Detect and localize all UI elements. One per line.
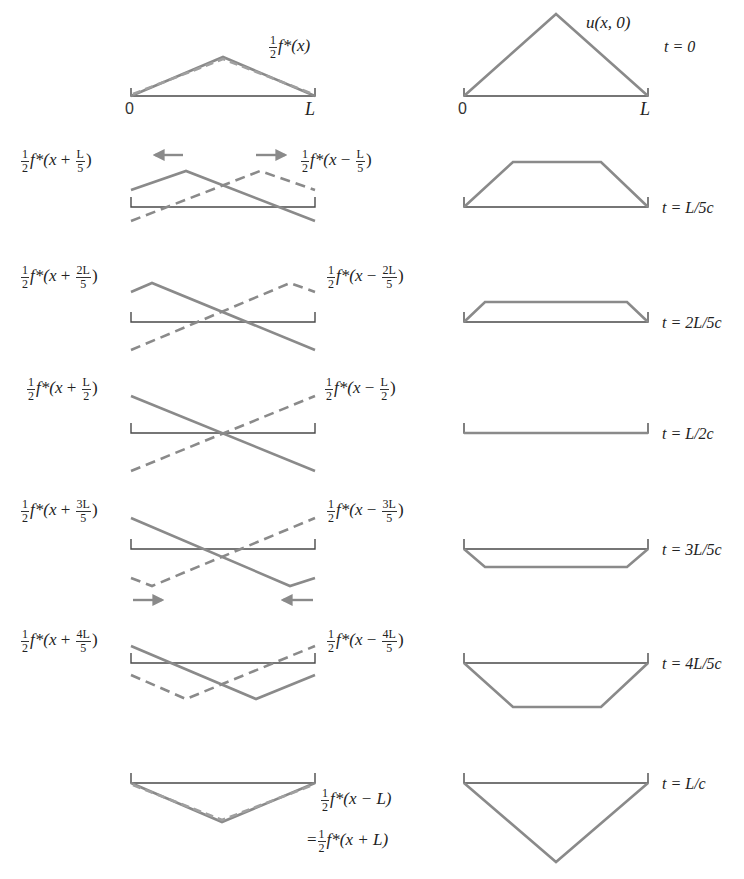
time-label-row3: t = L/2c [662,425,714,443]
wave-diagram [0,0,744,879]
axis-zero-left: 0 [125,100,134,118]
string-left-row4 [131,539,315,549]
string-left-row1 [131,197,315,207]
time-label-row4: t = 3L/5c [662,541,722,559]
u-row6 [464,783,648,862]
left-waves [131,57,315,822]
u-row5 [464,663,648,707]
wave-left-row5-solid [131,646,315,699]
wave-left-row6-dashed [133,785,313,820]
string-right-row5 [464,653,648,663]
label-final-line1: 12f*(x − L) [320,787,392,813]
label-half-fstar-x: 12f*(x) [268,34,310,60]
string-left-row0 [131,88,315,96]
right-waves [464,14,648,862]
time-label-row2: t = 2L/5c [662,314,722,332]
u-row2 [464,302,648,322]
label-u-x-0: u(x, 0) [586,14,630,31]
label-left-wave-row4: 12f*(x + 3L5) [20,498,98,524]
u-row4 [464,549,648,567]
wave-left-row1-dashed [131,171,315,221]
time-label-row6: t = L/c [662,775,706,793]
string-right-row0 [464,88,648,96]
wave-left-row6-solid [131,783,315,822]
label-final-line2: =12f*(x + L) [307,828,388,854]
label-right-wave-row4: 12f*(x − 3L5) [326,498,404,524]
string-right-row2 [464,312,648,322]
label-left-wave-row5: 12f*(x + 4L5) [20,628,98,654]
axis-L-left: L [305,99,315,120]
u-text: u(x, 0) [586,13,630,32]
func-text: f*(x) [278,36,310,55]
label-right-wave-row2: 12f*(x − 2L5) [326,264,404,290]
string-right-row6 [464,773,648,783]
string-right-row4 [464,539,648,549]
time-label-row1: t = L/5c [662,199,714,217]
wave-left-row2-solid [131,283,315,350]
fraction-half: 12 [269,34,277,60]
label-right-wave-row1: 12f*(x − L5) [300,148,372,174]
left-strings [131,88,315,783]
label-left-wave-row2: 12f*(x + 2L5) [20,264,98,290]
wave-left-row0-solid [131,57,315,96]
label-right-wave-row5: 12f*(x − 4L5) [326,628,404,654]
label-left-wave-row3: 12f*(x + L2) [26,376,98,402]
axis-L-right: L [640,99,650,120]
wave-left-row1-solid [131,171,315,221]
u-row1 [464,162,648,207]
label-right-wave-row3: 12f*(x − L2) [324,376,396,402]
string-right-row1 [464,197,648,207]
string-left-row6 [131,773,315,783]
wave-left-row4-dashed [131,518,315,586]
time-label-row0: t = 0 [664,38,695,56]
wave-left-row0-dashed [133,59,313,94]
label-left-wave-row1: 12f*(x + L5) [20,148,92,174]
string-left-row3 [131,423,315,433]
right-strings [464,88,648,783]
direction-arrows [133,155,313,600]
wave-left-row5-dashed [131,646,315,699]
time-label-row5: t = 4L/5c [662,655,722,673]
string-right-row3 [464,423,648,433]
axis-zero-right: 0 [458,100,467,118]
